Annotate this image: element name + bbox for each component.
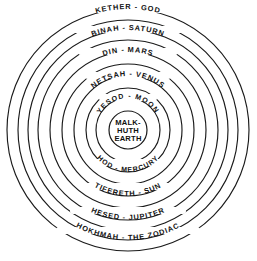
spheres-diagram: KETHER - GOD BINAH - SATURN DIN - MARS N… xyxy=(0,0,257,261)
ring-label-din-mars: DIN - MARS xyxy=(101,45,154,58)
ring-label-kether-god: KETHER - GOD xyxy=(94,2,161,15)
concentric-spheres-svg: KETHER - GOD BINAH - SATURN DIN - MARS N… xyxy=(0,0,257,261)
center-label-line3: EARTH xyxy=(114,134,141,143)
ring-label-binah-saturn: BINAH - SATURN xyxy=(90,23,166,38)
